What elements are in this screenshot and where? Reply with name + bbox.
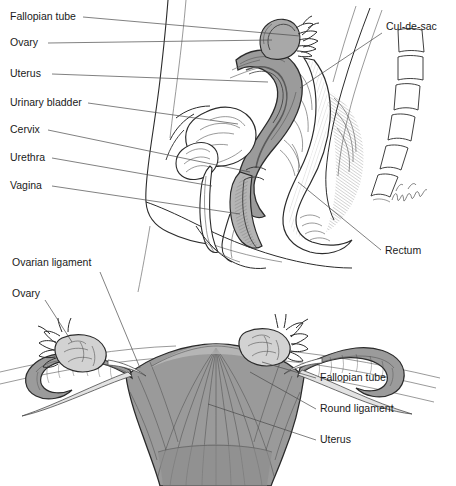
leader-ovary bbox=[48, 40, 272, 43]
label-vagina: Vagina bbox=[10, 179, 42, 191]
label-uterus-anterior: Uterus bbox=[320, 433, 351, 445]
label-cul-de-sac: Cul-de-sac bbox=[386, 20, 437, 32]
anatomy-illustration: Fallopian tube Ovary Uterus Urinary blad… bbox=[0, 0, 456, 486]
fallopian-tube-left bbox=[26, 318, 132, 399]
artist-signature bbox=[392, 184, 427, 201]
pelvic-floor-muscle bbox=[326, 92, 364, 232]
label-urethra: Urethra bbox=[10, 151, 45, 163]
uterus-anterior bbox=[126, 344, 304, 486]
label-ovary-anterior: Ovary bbox=[12, 287, 41, 299]
label-urinary-bladder: Urinary bladder bbox=[10, 96, 82, 108]
leader-ovary-anterior bbox=[45, 300, 72, 342]
sagittal-section-panel bbox=[48, 0, 427, 292]
label-cervix: Cervix bbox=[10, 123, 41, 135]
fallopian-tube-ovary-sagittal bbox=[260, 16, 319, 59]
label-fallopian-tube-sagittal: Fallopian tube bbox=[10, 10, 76, 22]
anatomy-figure-page: Fallopian tube Ovary Uterus Urinary blad… bbox=[0, 0, 456, 486]
label-uterus-sagittal: Uterus bbox=[10, 67, 41, 79]
label-rectum: Rectum bbox=[385, 244, 421, 256]
label-ovary-sagittal: Ovary bbox=[10, 36, 39, 48]
label-fallopian-tube-anterior: Fallopian tube bbox=[320, 371, 386, 383]
label-round-ligament: Round ligament bbox=[320, 402, 394, 414]
sacrum-vertebrae bbox=[371, 29, 424, 203]
cul-de-sac-region bbox=[280, 140, 300, 176]
label-ovarian-ligament: Ovarian ligament bbox=[12, 256, 91, 268]
